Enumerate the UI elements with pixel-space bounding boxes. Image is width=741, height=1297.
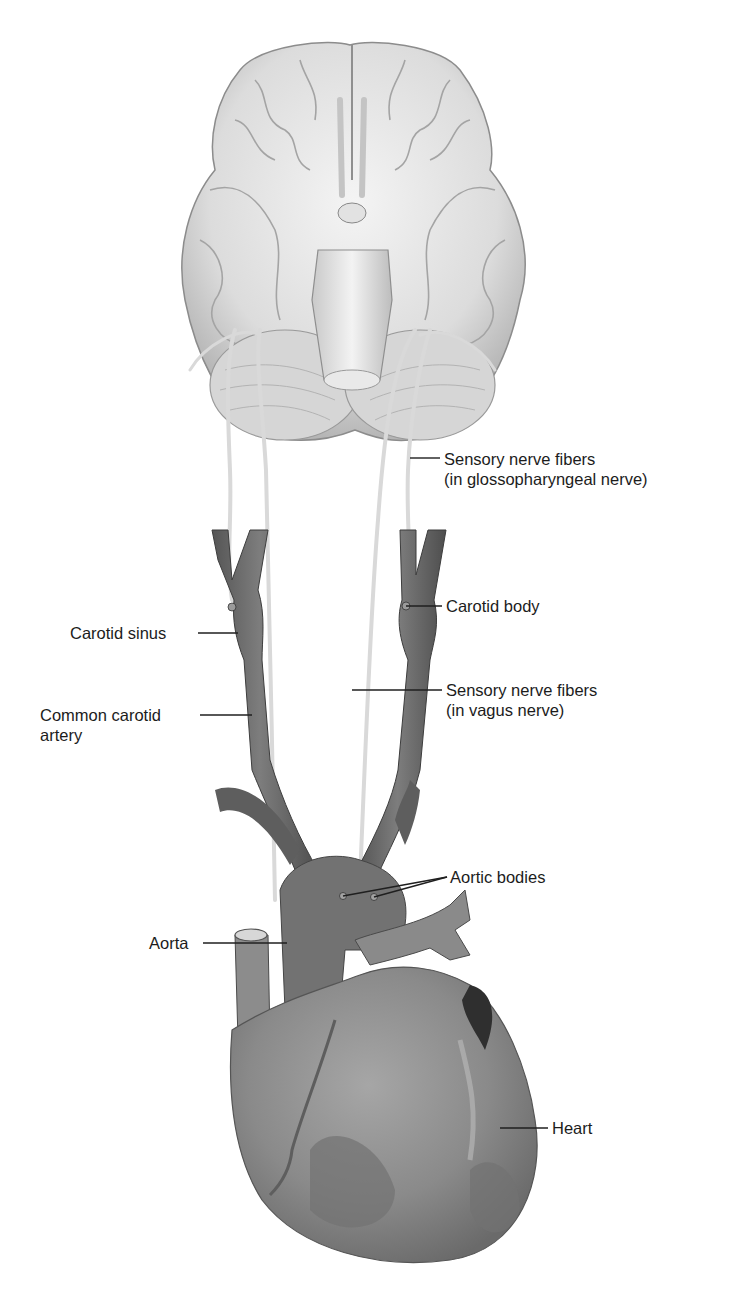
label-aorta: Aorta bbox=[149, 933, 188, 953]
label-common-carotid-artery: Common carotid artery bbox=[40, 705, 161, 745]
carotid-arteries bbox=[212, 530, 446, 872]
brain bbox=[182, 42, 525, 440]
label-line: artery bbox=[40, 725, 161, 745]
label-line: (in vagus nerve) bbox=[446, 700, 597, 720]
label-line: Sensory nerve fibers bbox=[446, 680, 597, 700]
label-heart: Heart bbox=[552, 1118, 592, 1138]
label-carotid-sinus: Carotid sinus bbox=[70, 623, 166, 643]
label-carotid-body: Carotid body bbox=[446, 596, 540, 616]
label-glossopharyngeal-sensory-fibers: Sensory nerve fibers (in glossopharyngea… bbox=[444, 449, 648, 489]
anatomy-illustration bbox=[0, 0, 741, 1297]
label-vagus-sensory-fibers: Sensory nerve fibers (in vagus nerve) bbox=[446, 680, 597, 720]
label-line: Sensory nerve fibers bbox=[444, 449, 648, 469]
label-line: (in glossopharyngeal nerve) bbox=[444, 469, 648, 489]
label-aortic-bodies: Aortic bodies bbox=[450, 867, 545, 887]
heart bbox=[230, 856, 537, 1262]
label-line: Common carotid bbox=[40, 705, 161, 725]
